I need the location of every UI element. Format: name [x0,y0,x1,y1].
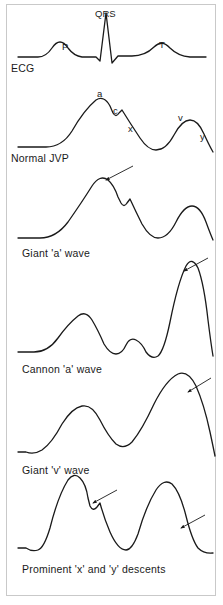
panel-label-giant-v-wave: Giant 'v' wave [22,464,90,476]
waveform-trace-prominent-x-y-descents [18,475,213,553]
panel-label-prominent-x-y-descents: Prominent 'x' and 'y' descents [22,563,166,575]
panel-label-cannon-a-wave: Cannon 'a' wave [22,363,102,375]
giant-a-wave-arrow [106,166,133,180]
waveform-trace-giant-v-wave [18,373,215,456]
panel-label-ecg: ECG [11,62,34,74]
panel-label-giant-a-wave: Giant 'a' wave [22,247,90,259]
qrs-complex-label: QRS [95,8,116,19]
y-descent-label: y [200,131,205,142]
waveform-trace-cannon-a-wave [18,261,213,357]
v-wave-label: v [178,112,183,123]
x-descent-label: x [128,123,133,134]
y-descent-arrow [181,515,205,528]
p-wave-label: P [62,41,68,52]
waveform-canvas [0,0,223,605]
panel-label-normal-jvp: Normal JVP [11,152,69,164]
x-descent-arrow [93,490,117,503]
waveform-trace-ecg [18,13,206,63]
giant-v-wave-arrow [188,378,211,392]
waveform-trace-giant-a-wave [18,178,213,240]
c-wave-label: c [113,105,118,116]
a-wave-label: a [97,88,102,99]
t-wave-label: T [159,39,165,50]
